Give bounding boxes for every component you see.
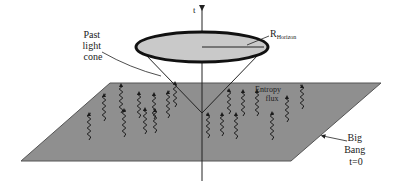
- big-bang-pointer: [323, 136, 347, 141]
- cosmology-diagram: t RHorizon Past light cone Entropy flux …: [0, 0, 400, 181]
- horizon-radius-label: RHorizon: [270, 28, 296, 40]
- big-bang-label: Big Bang t=0: [344, 132, 368, 167]
- big-bang-plane: [21, 83, 381, 161]
- past-light-cone-label: Past light cone: [83, 29, 104, 62]
- horizon-label-subscript: Horizon: [277, 34, 297, 40]
- time-axis-label: t: [193, 5, 196, 15]
- diagram-canvas: t RHorizon Past light cone Entropy flux …: [0, 0, 400, 181]
